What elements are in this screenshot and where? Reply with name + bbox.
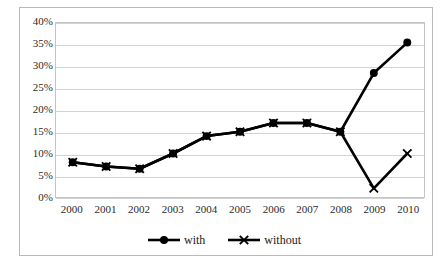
y-tick-label-5: 5% (7, 170, 53, 181)
x-tick-label-2007: 2007 (296, 203, 318, 216)
x-tick-label-2003: 2003 (162, 203, 184, 216)
series-line-with (73, 43, 408, 169)
data-point-without-2010 (403, 149, 411, 157)
x-axis-labels: 2000200120022003200420052006200720082009… (55, 203, 425, 219)
y-axis-labels: 40%35%30%25%20%15%10%5%0% (3, 22, 53, 198)
x-tick-label-2006: 2006 (263, 203, 285, 216)
chart-series-layer (56, 23, 424, 197)
x-tick-label-2005: 2005 (229, 203, 251, 216)
chart-legend: withwithout (0, 230, 448, 250)
legend-label: with (184, 233, 205, 247)
y-tick-label-40: 40% (7, 16, 53, 27)
x-tick-label-2000: 2000 (61, 203, 83, 216)
y-tick-label-15: 15% (7, 126, 53, 137)
x-tick-label-2008: 2008 (330, 203, 352, 216)
data-point-without-2009 (370, 184, 378, 192)
legend-entry-with[interactable]: with (147, 233, 205, 247)
y-tick-label-25: 25% (7, 82, 53, 93)
x-marker-icon (227, 233, 261, 247)
y-tick-label-35: 35% (7, 38, 53, 49)
plot-area (55, 22, 425, 198)
gridline-0 (56, 198, 424, 199)
legend-entry-without[interactable]: without (227, 233, 301, 247)
circle-marker-icon (147, 233, 181, 247)
x-tick-label-2002: 2002 (128, 203, 150, 216)
y-tick-label-20: 20% (7, 104, 53, 115)
chart-title-remnant (200, 0, 350, 6)
data-point-with-2010 (403, 39, 411, 47)
x-tick-label-2010: 2010 (397, 203, 419, 216)
data-point-with-2009 (370, 69, 378, 77)
chart-figure: 40%35%30%25%20%15%10%5%0% 20002001200220… (0, 0, 448, 270)
x-tick-label-2001: 2001 (94, 203, 116, 216)
x-tick-label-2009: 2009 (364, 203, 386, 216)
legend-label: without (264, 233, 301, 247)
x-tick-label-2004: 2004 (195, 203, 217, 216)
y-tick-label-0: 0% (7, 192, 53, 203)
y-tick-label-30: 30% (7, 60, 53, 71)
y-tick-label-10: 10% (7, 148, 53, 159)
